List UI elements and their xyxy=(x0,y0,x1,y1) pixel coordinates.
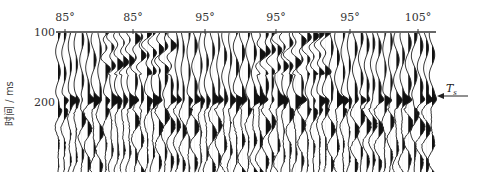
seismic-section-chart: 85° 85° 95° 95° 95° 105° 100 200 时间 / ms… xyxy=(0,0,482,188)
ts-annotation-label: Ts xyxy=(446,82,457,97)
y-tick-label: 200 xyxy=(34,96,55,109)
x-tick-label: 95° xyxy=(340,11,360,24)
x-tick-label: 85° xyxy=(55,11,75,24)
y-tick-label: 100 xyxy=(34,26,55,39)
x-tick-label: 95° xyxy=(195,11,215,24)
x-tick-label: 85° xyxy=(123,11,143,24)
y-axis-label: 时间 / ms xyxy=(1,81,16,126)
x-tick-label: 105° xyxy=(405,11,432,24)
x-tick-label: 95° xyxy=(266,11,286,24)
seismic-traces-plot xyxy=(0,0,482,188)
